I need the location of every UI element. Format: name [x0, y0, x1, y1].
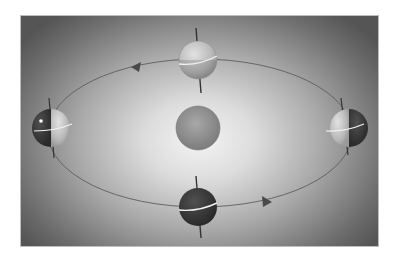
earth-top — [179, 28, 217, 93]
earth-right — [326, 98, 368, 155]
orbit-arrow-left-icon — [131, 62, 141, 72]
earth-bottom — [179, 176, 217, 238]
sun — [176, 106, 220, 150]
orbit-arrow-right-icon — [262, 196, 272, 207]
orbit-diagram — [0, 0, 395, 261]
